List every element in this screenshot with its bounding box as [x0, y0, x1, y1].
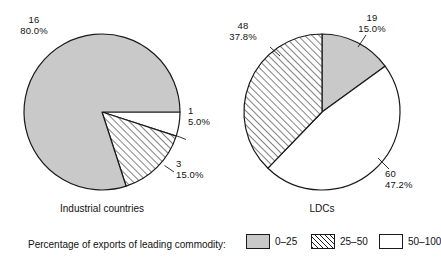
- label-ldcs-50-100: 60 47.2%: [385, 168, 429, 190]
- legend-swatch-hatched-icon: [311, 234, 335, 249]
- label-ldcs-50-100-count: 60: [385, 168, 429, 179]
- pie-ldcs: [244, 34, 400, 190]
- label-industrial-25-50: 3 15.0%: [176, 158, 224, 180]
- label-ldcs-25-50: 48 37.8%: [215, 20, 271, 42]
- legend-label-25-50: 25–50: [340, 236, 368, 248]
- label-ldcs-0-25-count: 19: [345, 12, 399, 23]
- label-industrial-0-25: 16 80.0%: [8, 14, 60, 36]
- legend-item-0-25: 0–25: [246, 234, 297, 249]
- legend-item-25-50: 25–50: [311, 234, 368, 249]
- label-industrial-50-100: 1 5.0%: [188, 105, 232, 127]
- label-industrial-50-100-percent: 5.0%: [188, 116, 232, 127]
- legend-swatch-white-icon: [379, 234, 403, 249]
- caption-ldcs: LDCs: [282, 203, 362, 215]
- label-ldcs-50-100-percent: 47.2%: [385, 179, 429, 190]
- label-industrial-25-50-count: 3: [176, 158, 224, 169]
- label-ldcs-0-25-percent: 15.0%: [345, 23, 399, 34]
- legend-label-50-100: 50–100: [408, 236, 441, 248]
- label-ldcs-25-50-count: 48: [215, 20, 271, 31]
- label-industrial-0-25-count: 16: [8, 14, 60, 25]
- label-ldcs-0-25: 19 15.0%: [345, 12, 399, 34]
- label-industrial-0-25-percent: 80.0%: [8, 25, 60, 36]
- label-ldcs-25-50-percent: 37.8%: [215, 31, 271, 42]
- legend-swatch-solid-gray-icon: [246, 234, 270, 249]
- label-industrial-50-100-count: 1: [188, 105, 232, 116]
- legend-label-0-25: 0–25: [275, 236, 297, 248]
- legend-item-50-100: 50–100: [379, 234, 441, 249]
- caption-industrial-countries: Industrial countries: [42, 203, 162, 215]
- legend-title: Percentage of exports of leading commodi…: [28, 239, 226, 251]
- label-industrial-25-50-percent: 15.0%: [176, 169, 224, 180]
- pie-industrial-countries: [24, 34, 180, 190]
